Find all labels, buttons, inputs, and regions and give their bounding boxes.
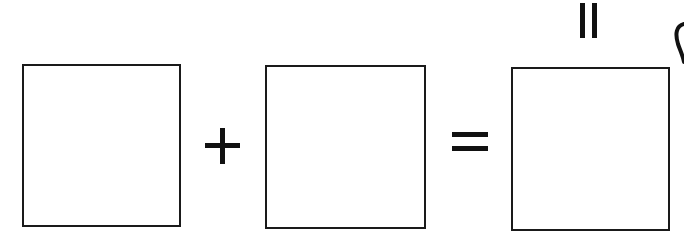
sum-box[interactable] [511,67,670,231]
addend-box-2[interactable] [265,65,426,229]
equals-icon [452,132,488,152]
addend-box-1[interactable] [22,64,181,227]
plus-icon [205,128,240,164]
curved-stroke-icon [670,20,684,65]
parallel-mark-icon [579,3,599,38]
